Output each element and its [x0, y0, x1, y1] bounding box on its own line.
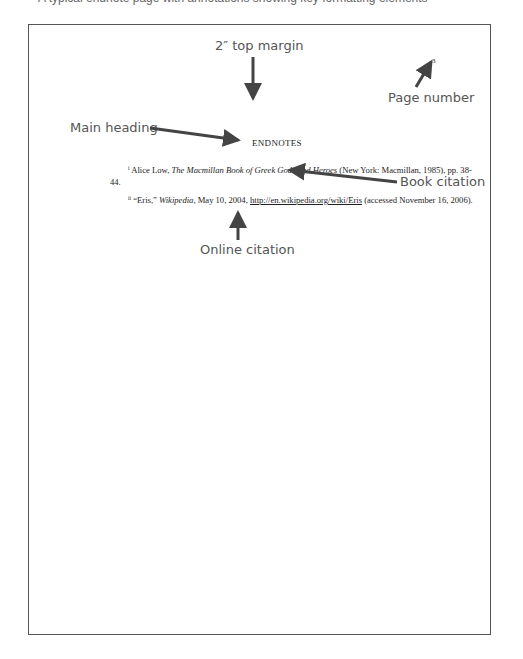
arrow-main-heading-icon	[150, 128, 238, 140]
arrow-page-number-icon	[416, 62, 431, 87]
annotation-arrows	[0, 0, 523, 659]
arrow-book-citation-icon	[290, 170, 397, 182]
